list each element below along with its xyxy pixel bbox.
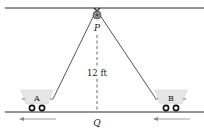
wheel-icon — [39, 105, 44, 110]
rope-to-cart-b — [101, 16, 157, 99]
arrow-left-icon — [19, 117, 56, 121]
wheel-icon — [163, 105, 168, 110]
height-label: 12 ft — [87, 68, 108, 78]
rope-to-cart-a — [53, 16, 94, 99]
pulley-label: P — [93, 23, 101, 33]
pulley-diagram: P 12 ft A B Q — [0, 0, 204, 129]
wheel-icon — [173, 105, 178, 110]
pulley-icon — [93, 8, 101, 19]
cart-a-label: A — [33, 94, 40, 103]
wheel-icon — [29, 105, 34, 110]
arrow-left-icon — [153, 117, 190, 121]
ground-point-label: Q — [93, 118, 101, 128]
cart-b-label: B — [168, 94, 174, 103]
